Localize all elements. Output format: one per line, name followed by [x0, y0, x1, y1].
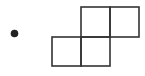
grid-cell-r0-c2: [110, 7, 139, 37]
s-tetromino-shape: [52, 7, 139, 66]
grid-cell-r0-c1: [81, 7, 110, 37]
bullet-point-icon: [11, 30, 19, 38]
grid-cell-r1-c0: [52, 37, 81, 66]
grid-cell-r1-c1: [81, 37, 110, 66]
tetromino-diagram: [0, 0, 145, 76]
